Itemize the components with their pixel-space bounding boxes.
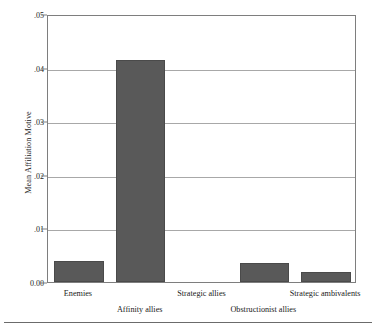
y-tick-label: .03 [4,118,44,127]
gridline [48,70,355,71]
y-tick-label: 0.00 [4,279,44,288]
bottom-divider-rule [4,322,372,323]
gridline [48,123,355,124]
x-tick-label-strategic-allies: Strategic allies [177,289,225,298]
bar-affinity-allies [116,60,165,282]
gridline [48,177,355,178]
gridline [48,230,355,231]
y-axis-title: Mean Affiliation Motive [24,63,33,243]
y-tick-label: .04 [4,64,44,73]
bar-enemies [54,261,103,282]
plot-area [47,15,356,283]
bar-strategic-ambivalents [301,272,350,282]
bar-chart-figure: Mean Affiliation Motive 0.00.01.02.03.04… [0,0,376,329]
y-tick-label: .01 [4,225,44,234]
y-tick-label: .05 [4,11,44,20]
x-tick-label-affinity-allies: Affinity allies [117,305,163,314]
x-tick-label-strategic-ambivalents: Strategic ambivalents [290,289,361,298]
y-tick-label: .02 [4,171,44,180]
x-tick-label-enemies: Enemies [64,289,92,298]
bar-obstructionist-allies [240,263,289,282]
x-tick-label-obstructionist-allies: Obstructionist allies [230,305,296,314]
